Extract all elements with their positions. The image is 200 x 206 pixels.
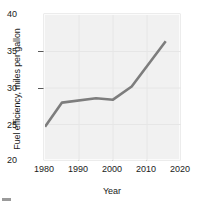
plot-svg	[45, 15, 181, 161]
y-tick-label-35: 35	[0, 47, 17, 56]
x-tick-label-2020: 2020	[160, 165, 200, 174]
y-tick-label-20: 20	[0, 156, 17, 165]
gridlines	[45, 15, 181, 161]
x-axis-title: Year	[44, 186, 180, 196]
y-tick-label-40: 40	[0, 10, 17, 19]
y-tick-label-30: 30	[0, 84, 17, 93]
y-tick-label-25: 25	[0, 121, 17, 130]
data-line-fuel-efficiency	[45, 41, 166, 126]
fuel-efficiency-line-chart: Fuel efficiency, miles per gallon 40 35 …	[0, 0, 200, 206]
scan-artifact-mark	[2, 198, 11, 201]
plot-area	[44, 14, 180, 160]
